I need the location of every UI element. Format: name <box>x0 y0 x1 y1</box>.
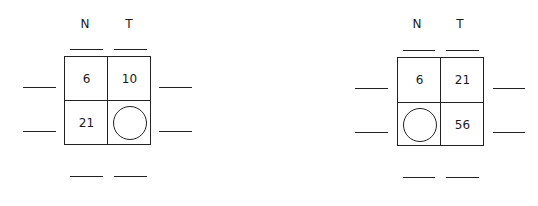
blank-bottom-t[interactable] <box>446 177 479 178</box>
puzzle-2: N T 6 21 56 <box>333 0 533 206</box>
cell-r2c1: 21 <box>65 101 108 145</box>
header-t: T <box>119 17 139 31</box>
blank-top-t[interactable] <box>114 49 147 50</box>
blank-right-row1[interactable] <box>159 87 192 88</box>
header-n: N <box>75 17 95 31</box>
blank-right-row2[interactable] <box>493 132 525 133</box>
cell-r1c2: 21 <box>441 58 484 102</box>
blank-bottom-t[interactable] <box>114 176 147 177</box>
cell-r2c1[interactable] <box>398 103 441 147</box>
blank-top-n[interactable] <box>403 50 435 51</box>
blank-left-row1[interactable] <box>355 88 388 89</box>
blank-left-row2[interactable] <box>355 132 388 133</box>
blank-top-t[interactable] <box>446 50 479 51</box>
cell-r1c2: 10 <box>108 57 151 101</box>
blank-top-n[interactable] <box>70 49 103 50</box>
blank-right-row2[interactable] <box>159 131 192 132</box>
blank-left-row1[interactable] <box>23 87 56 88</box>
cell-r1c1: 6 <box>65 57 108 101</box>
blank-right-row1[interactable] <box>493 88 525 89</box>
blank-bottom-n[interactable] <box>403 177 435 178</box>
blank-bottom-n[interactable] <box>70 176 103 177</box>
puzzle-1: N T 6 10 21 <box>0 0 200 206</box>
grid: 6 10 21 <box>64 56 151 145</box>
unknown-circle[interactable] <box>403 108 437 142</box>
unknown-circle[interactable] <box>113 106 147 140</box>
blank-left-row2[interactable] <box>23 131 56 132</box>
cell-r2c2: 56 <box>441 103 484 147</box>
header-t: T <box>450 17 470 31</box>
cell-r2c2[interactable] <box>108 101 151 145</box>
grid: 6 21 56 <box>397 57 484 146</box>
header-n: N <box>407 17 427 31</box>
cell-r1c1: 6 <box>398 58 441 102</box>
